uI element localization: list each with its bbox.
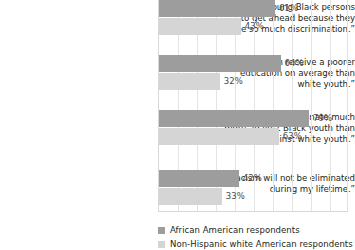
grouped-bar-chart: “It is hard for young Black persons to g… (0, 0, 355, 250)
bar-series0-cat1 (159, 55, 281, 72)
bar-series1-cat2 (159, 128, 279, 145)
bar-series1-cat0 (159, 18, 241, 35)
bar-series0-cat3 (159, 170, 239, 187)
legend-swatch-icon (158, 241, 165, 248)
legend-label-1: Non-Hispanic white American respondents (170, 239, 353, 249)
bar-group-0: 61% 43% (159, 0, 347, 35)
bar-group-1: 64% 32% (159, 55, 347, 90)
bar-series0-cat0 (159, 0, 275, 17)
plot-area: 61% 43% 64% 32% 79% 63% 42% 33% (158, 0, 348, 212)
bar-value-series1-cat1: 32% (224, 73, 243, 90)
bar-series1-cat1 (159, 73, 220, 90)
bar-value-series0-cat1: 64% (285, 55, 304, 72)
bar-group-3: 42% 33% (159, 170, 347, 205)
bar-group-2: 79% 63% (159, 110, 347, 145)
bar-series0-cat2 (159, 110, 309, 127)
bar-value-series0-cat3: 42% (243, 170, 262, 187)
bar-value-series1-cat3: 33% (226, 188, 245, 205)
legend-item-1: Non-Hispanic white American respondents (158, 238, 353, 250)
legend-item-0: African American respondents (158, 224, 353, 236)
bar-value-series0-cat0: 61% (279, 0, 298, 17)
bar-series1-cat3 (159, 188, 222, 205)
legend-label-0: African American respondents (170, 225, 300, 235)
bar-value-series0-cat2: 79% (313, 110, 332, 127)
legend-swatch-icon (158, 227, 165, 234)
bar-value-series1-cat0: 43% (245, 18, 264, 35)
chart-legend: African American respondents Non-Hispani… (158, 224, 353, 250)
bar-value-series1-cat2: 63% (283, 128, 302, 145)
